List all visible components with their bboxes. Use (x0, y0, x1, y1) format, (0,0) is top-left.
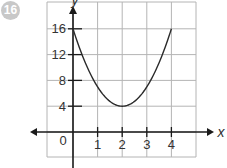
y-axis-label: y (71, 0, 80, 8)
y-tick-label: 8 (59, 73, 66, 88)
x-tick-label: 4 (168, 137, 175, 152)
x-axis-left-arrow-icon (30, 128, 37, 136)
x-axis-right-arrow-icon (207, 128, 214, 136)
grid (47, 2, 196, 157)
y-tick-label: 16 (52, 21, 66, 36)
x-axis-label: x (217, 124, 226, 140)
y-tick-label: 12 (52, 47, 66, 62)
origin-label: 0 (59, 133, 66, 148)
x-tick-label: 3 (143, 137, 150, 152)
x-tick-label: 2 (119, 137, 126, 152)
parabola-chart: 12344812160xy (0, 0, 227, 168)
tick-labels: 12344812160xy (52, 0, 226, 152)
y-tick-label: 4 (59, 99, 66, 114)
x-tick-label: 1 (94, 137, 101, 152)
